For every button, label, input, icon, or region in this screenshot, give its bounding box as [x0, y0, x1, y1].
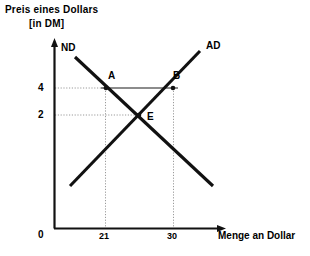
point-marker-e: [137, 113, 142, 118]
x-axis-tick-label-30: 30: [167, 232, 177, 241]
curve-nd: [75, 57, 213, 186]
point-marker-a: [104, 86, 109, 91]
point-label-e: E: [147, 112, 154, 122]
x-axis-title: Menge an Dollar: [218, 231, 295, 241]
point-label-b: B: [173, 71, 180, 81]
y-axis-tick-label-2: 2: [38, 110, 44, 120]
x-axis-tick-label-21: 21: [99, 232, 109, 241]
y-axis-arrow-icon: [51, 38, 58, 47]
plot-area: [0, 0, 310, 256]
y-axis-tick-label-4: 4: [38, 83, 44, 93]
point-marker-b: [171, 86, 176, 91]
point-label-a: A: [108, 71, 115, 81]
curve-label-nd: ND: [61, 43, 75, 53]
curve-label-ad: AD: [206, 41, 220, 51]
origin-label: 0: [38, 230, 44, 240]
exchange-rate-supply-demand-chart: Preis eines Dollars [in DM] ND AD A B E …: [0, 0, 310, 256]
